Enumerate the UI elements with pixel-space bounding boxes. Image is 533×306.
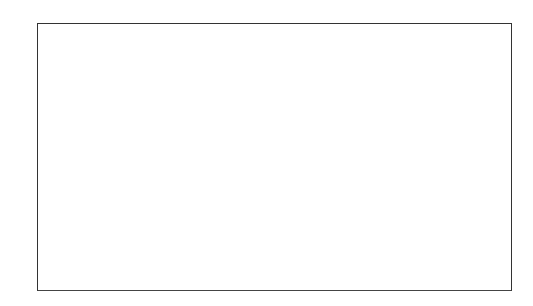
plot-area (37, 23, 512, 291)
